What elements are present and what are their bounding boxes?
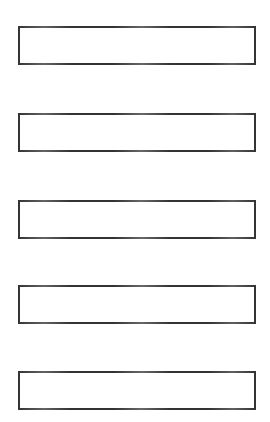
form-field-value-5[interactable] (20, 373, 254, 408)
form-field-value-4[interactable] (20, 287, 254, 322)
form-field-value-3[interactable] (20, 202, 254, 237)
form-field-box-2[interactable] (18, 113, 256, 152)
form-field-box-3[interactable] (18, 200, 256, 239)
document-page (0, 0, 270, 422)
form-field-box-1[interactable] (18, 26, 256, 65)
form-field-value-1[interactable] (20, 28, 254, 63)
form-field-box-4[interactable] (18, 285, 256, 324)
form-field-box-5[interactable] (18, 371, 256, 410)
form-field-value-2[interactable] (20, 115, 254, 150)
